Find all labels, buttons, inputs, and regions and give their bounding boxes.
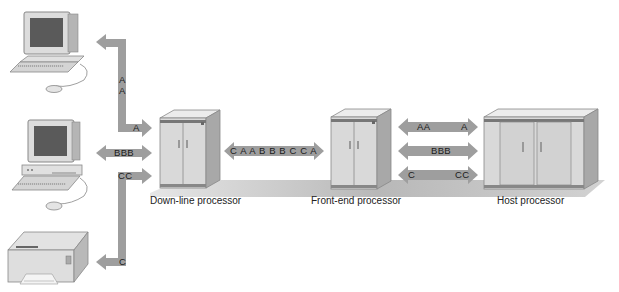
host-link-b-text: BBB	[431, 145, 451, 156]
terminal-a-icon	[10, 12, 87, 93]
terminal-a-link-text-2: A	[119, 85, 126, 96]
printer-icon	[8, 232, 88, 284]
multiplexed-link-text: C A A B B B C C A	[230, 145, 317, 156]
host-link-a-left-text: AA	[417, 121, 430, 132]
printer-link-text-bottom: C	[119, 256, 126, 267]
host-link-c-right-text: CC	[455, 169, 469, 180]
terminal-a-link-text-bottom: A	[133, 122, 140, 133]
host-processor-label: Host processor	[497, 195, 564, 206]
host-link-a-right-text: A	[461, 121, 468, 132]
printer-link-text-top: CC	[118, 170, 132, 181]
terminal-a-link-text-1: A	[119, 74, 126, 85]
host-link-c-left-text: C	[408, 169, 415, 180]
downline-processor-label: Down-line processor	[150, 195, 241, 206]
frontend-processor-icon	[331, 109, 391, 189]
printer-link-arrow	[96, 168, 152, 270]
terminal-b-icon	[12, 120, 87, 210]
host-processor-icon	[484, 109, 598, 189]
downline-processor-icon	[160, 110, 220, 188]
frontend-processor-label: Front-end processor	[311, 195, 401, 206]
terminal-b-link-text: BBB	[114, 147, 134, 158]
